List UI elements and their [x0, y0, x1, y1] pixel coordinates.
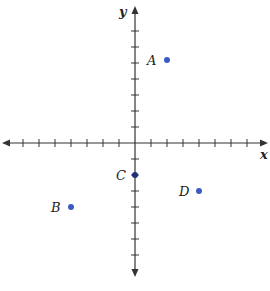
- point-C-label: C: [116, 168, 126, 183]
- x-axis-right-arrow-icon: [260, 140, 268, 147]
- point-B-label: B: [50, 200, 61, 215]
- coordinate-plane: x y A B C D: [0, 0, 270, 291]
- point-A-label: A: [146, 53, 156, 68]
- y-axis: y: [118, 4, 139, 277]
- point-D-label: D: [178, 184, 190, 199]
- point-D-marker: [196, 188, 202, 194]
- point-A-marker: [164, 57, 170, 63]
- x-axis-label: x: [259, 147, 268, 162]
- point-B: B: [50, 200, 74, 215]
- y-axis-label: y: [118, 4, 128, 19]
- y-axis-up-arrow-icon: [132, 6, 139, 14]
- point-B-marker: [68, 204, 74, 210]
- y-axis-down-arrow-icon: [132, 269, 139, 277]
- point-C-marker: [132, 172, 138, 178]
- point-D: D: [178, 184, 202, 199]
- x-axis-left-arrow-icon: [2, 140, 10, 147]
- point-A: A: [146, 53, 170, 68]
